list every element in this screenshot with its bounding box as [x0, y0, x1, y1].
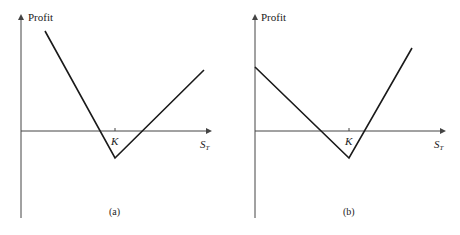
panel-b: Profit K ST (b) — [255, 11, 445, 218]
strike-label: K — [344, 135, 353, 147]
strike-label: K — [110, 135, 119, 147]
y-axis-label: Profit — [261, 11, 286, 23]
y-axis-label: Profit — [28, 11, 53, 23]
x-axis-label: ST — [200, 138, 211, 152]
panel-label: (b) — [343, 206, 355, 218]
figure: Profit K ST (a) Profit K ST (b) — [0, 0, 460, 235]
panel-a: Profit K ST (a) — [21, 11, 211, 218]
profit-line — [255, 48, 412, 158]
profit-line — [45, 31, 204, 158]
panel-label: (a) — [109, 206, 120, 218]
x-axis-label: ST — [434, 138, 445, 152]
